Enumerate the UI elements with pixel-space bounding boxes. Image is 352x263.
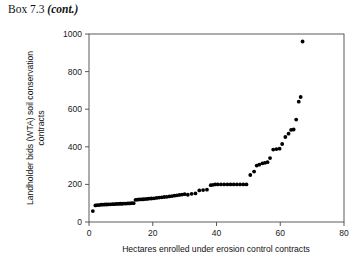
x-tick-label: 0 xyxy=(87,228,92,238)
data-point xyxy=(283,135,287,139)
data-point xyxy=(287,132,291,136)
y-tick-label: 200 xyxy=(68,179,82,189)
y-tick-label: 800 xyxy=(68,67,82,77)
data-point xyxy=(245,183,249,187)
data-point xyxy=(252,170,256,174)
x-axis-title: Hectares enrolled under erosion control … xyxy=(122,244,310,254)
data-point xyxy=(205,188,209,192)
data-point xyxy=(301,40,305,44)
x-tick-label: 40 xyxy=(212,228,222,238)
x-tick-label: 80 xyxy=(339,228,349,238)
data-points-group xyxy=(91,40,305,213)
data-point xyxy=(248,173,252,177)
data-point xyxy=(292,128,296,132)
scatter-chart-figure: 020406080 02004006008001000 Hectares enr… xyxy=(0,0,352,263)
y-axis-title-line2: contracts xyxy=(36,111,46,146)
data-point xyxy=(201,188,205,192)
x-tick-label: 20 xyxy=(148,228,158,238)
data-point xyxy=(266,160,270,164)
y-axis-ticks: 02004006008001000 xyxy=(63,29,89,227)
data-point xyxy=(299,95,303,99)
data-point xyxy=(132,201,136,205)
data-point xyxy=(297,100,301,104)
data-point xyxy=(186,193,190,197)
data-point xyxy=(183,192,187,196)
data-point xyxy=(91,209,95,213)
y-tick-label: 600 xyxy=(68,104,82,114)
chart-svg: 020406080 02004006008001000 Hectares enr… xyxy=(0,0,352,263)
y-tick-label: 1000 xyxy=(63,29,82,39)
y-tick-label: 400 xyxy=(68,142,82,152)
data-point xyxy=(280,142,284,146)
data-point xyxy=(194,192,198,196)
y-tick-label: 0 xyxy=(77,217,82,227)
plot-frame xyxy=(89,34,344,222)
data-point xyxy=(190,192,194,196)
x-tick-label: 60 xyxy=(276,228,286,238)
data-point xyxy=(271,148,275,152)
data-point xyxy=(268,156,272,160)
data-point xyxy=(278,147,282,151)
x-axis-ticks: 020406080 xyxy=(87,222,349,238)
data-point xyxy=(294,118,298,122)
data-point xyxy=(197,189,201,193)
y-axis-title-line1: Landholder bids (WTA) soil conservation xyxy=(25,51,35,205)
